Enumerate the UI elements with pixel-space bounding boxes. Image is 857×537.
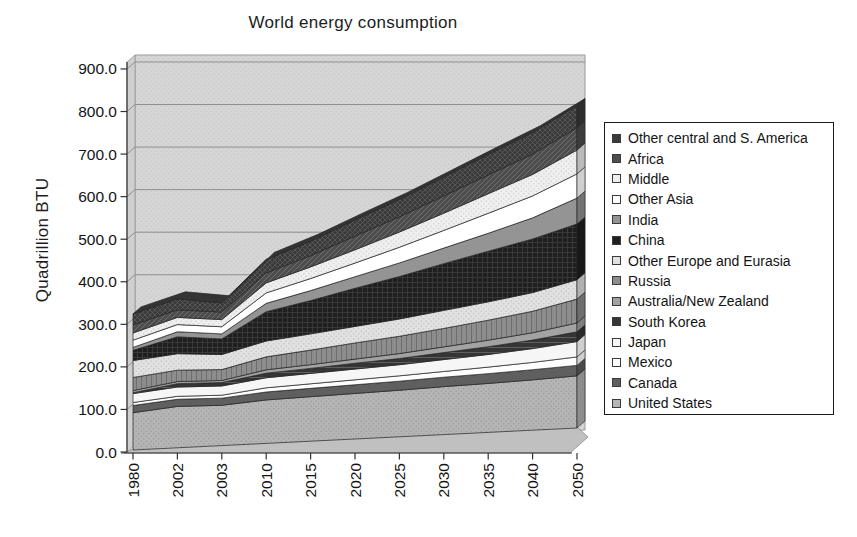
legend-item-middle: Middle	[612, 169, 829, 189]
legend-item-japan: Japan	[612, 332, 829, 352]
legend-label: Middle	[628, 172, 669, 186]
legend-swatch	[612, 358, 621, 367]
legend-label: Australia/New Zealand	[628, 294, 769, 308]
legend-swatch	[612, 154, 621, 163]
legend-swatch	[612, 174, 621, 183]
legend-swatch	[612, 338, 621, 347]
svg-text:2035: 2035	[480, 463, 497, 497]
legend-label: India	[628, 213, 658, 227]
svg-text:2050: 2050	[569, 463, 586, 498]
legend-item-united-states: United States	[612, 393, 829, 413]
legend-item-other-europe-and-eurasia: Other Europe and Eurasia	[612, 250, 829, 270]
legend-swatch	[612, 378, 621, 387]
figure-world-energy-consumption: World energy consumption Quadrillion BTU…	[0, 0, 857, 537]
legend-label: United States	[628, 396, 712, 410]
y-tick-labels: 900.0800.0700.0600.0500.0400.0300.0200.0…	[78, 60, 127, 460]
svg-text:2002: 2002	[169, 463, 186, 497]
legend-swatch	[612, 134, 621, 143]
legend-label: South Korea	[628, 315, 706, 329]
svg-text:300.0: 300.0	[78, 316, 117, 333]
svg-text:2025: 2025	[391, 463, 408, 497]
svg-text:2020: 2020	[347, 463, 364, 498]
legend-item-other-central-and-s-america: Other central and S. America	[612, 128, 829, 148]
svg-text:100.0: 100.0	[78, 401, 117, 418]
legend-swatch	[612, 215, 621, 224]
legend-label: Mexico	[628, 355, 672, 369]
svg-text:2030: 2030	[435, 463, 452, 498]
series-side-faces	[577, 99, 585, 428]
x-tick-labels: 1980200220032010201520202025203020352040…	[125, 453, 586, 497]
svg-text:500.0: 500.0	[78, 231, 117, 248]
legend-swatch	[612, 317, 621, 326]
legend-swatch	[612, 276, 621, 285]
svg-text:2015: 2015	[302, 463, 319, 497]
legend-label: China	[628, 233, 665, 247]
legend-item-china: China	[612, 230, 829, 250]
svg-text:400.0: 400.0	[78, 273, 117, 290]
legend-item-other-asia: Other Asia	[612, 189, 829, 209]
svg-text:600.0: 600.0	[78, 188, 117, 205]
legend-item-russia: Russia	[612, 271, 829, 291]
legend-item-south-korea: South Korea	[612, 312, 829, 332]
svg-text:900.0: 900.0	[78, 60, 117, 77]
legend-swatch	[612, 236, 621, 245]
legend-item-india: India	[612, 210, 829, 230]
legend-label: Japan	[628, 335, 666, 349]
legend-item-africa: Africa	[612, 148, 829, 168]
svg-text:1980: 1980	[125, 463, 142, 498]
svg-text:800.0: 800.0	[78, 103, 117, 120]
legend: Other central and S. AmericaAfricaMiddle…	[604, 122, 834, 415]
legend-label: Africa	[628, 152, 664, 166]
svg-text:2040: 2040	[524, 463, 541, 498]
legend-swatch	[612, 195, 621, 204]
legend-item-mexico: Mexico	[612, 352, 829, 372]
legend-swatch	[612, 297, 621, 306]
svg-text:2003: 2003	[213, 463, 230, 497]
legend-swatch	[612, 399, 621, 408]
legend-item-canada: Canada	[612, 373, 829, 393]
legend-label: Canada	[628, 376, 677, 390]
legend-item-australia-new-zealand: Australia/New Zealand	[612, 291, 829, 311]
svg-text:2010: 2010	[258, 463, 275, 498]
legend-label: Other Asia	[628, 192, 693, 206]
svg-text:0.0: 0.0	[95, 444, 117, 461]
legend-swatch	[612, 256, 621, 265]
svg-text:700.0: 700.0	[78, 146, 117, 163]
legend-label: Other Europe and Eurasia	[628, 254, 791, 268]
legend-label: Other central and S. America	[628, 131, 808, 145]
legend-label: Russia	[628, 274, 671, 288]
svg-text:200.0: 200.0	[78, 358, 117, 375]
